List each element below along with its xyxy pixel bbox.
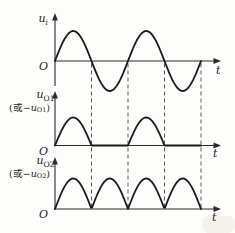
rectifier-waveforms-svg: u i O t u O1 (或−uO1) O t u O2 (或−uO2) O … xyxy=(0,0,235,233)
plot3-alt-open: (或− xyxy=(9,168,31,179)
plot3-origin-label: O xyxy=(39,208,48,221)
plot1-origin-label: O xyxy=(39,60,48,73)
plot2-alt-close: ) xyxy=(46,102,50,113)
plot1-xlabel: t xyxy=(216,64,221,77)
plot3-xlabel: t xyxy=(212,211,217,224)
plot2-alt-sub: O1 xyxy=(37,106,46,114)
plot3-alt-close: ) xyxy=(46,168,50,179)
paper-tint-smudge xyxy=(202,216,235,233)
plot3-alt-sub: O2 xyxy=(37,172,46,180)
plot2-xlabel: t xyxy=(213,147,218,160)
plot2-alt-open: (或− xyxy=(9,102,31,113)
rectifier-waveform-figure: u i O t u O1 (或−uO1) O t u O2 (或−uO2) O … xyxy=(0,0,235,233)
figure-background xyxy=(0,0,235,233)
